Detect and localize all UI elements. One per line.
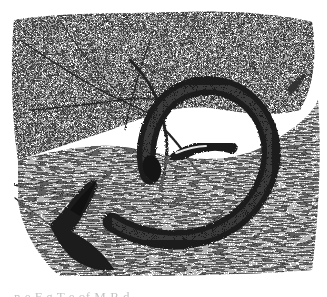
figure-caption: n e F g T e of M R d bbox=[14, 286, 324, 297]
snake-illustration bbox=[0, 0, 327, 284]
